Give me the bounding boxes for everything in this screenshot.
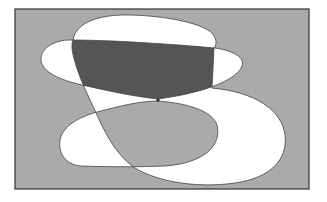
pinch-point xyxy=(156,98,159,101)
venn-diagram xyxy=(0,0,327,202)
diagram-canvas xyxy=(0,0,327,202)
